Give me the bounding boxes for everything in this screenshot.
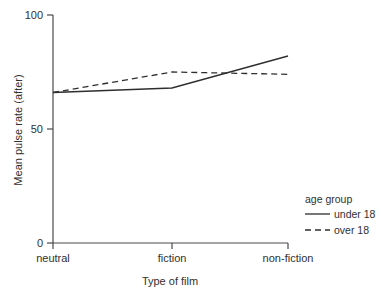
x-axis-title: Type of film bbox=[142, 275, 198, 287]
y-tick-label-100: 100 bbox=[25, 9, 43, 21]
line-chart: 100 50 0 neutral fiction non-fiction Typ… bbox=[0, 0, 389, 295]
series-line-over-18 bbox=[53, 72, 288, 93]
legend-title: age group bbox=[305, 193, 352, 205]
chart-canvas: 100 50 0 neutral fiction non-fiction Typ… bbox=[0, 0, 389, 295]
x-category-label-non-fiction: non-fiction bbox=[263, 252, 314, 264]
y-tick-label-50: 50 bbox=[31, 123, 43, 135]
legend-label-under-18: under 18 bbox=[334, 208, 376, 220]
y-axis-title: Mean pulse rate (after) bbox=[12, 74, 24, 185]
x-category-label-fiction: fiction bbox=[158, 252, 187, 264]
legend-label-over-18: over 18 bbox=[334, 224, 369, 236]
y-tick-label-0: 0 bbox=[37, 237, 43, 249]
x-category-label-neutral: neutral bbox=[36, 252, 70, 264]
